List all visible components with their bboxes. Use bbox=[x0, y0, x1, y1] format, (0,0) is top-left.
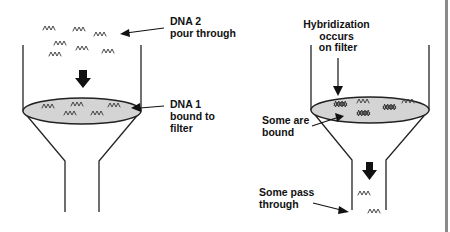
some-pass-pointer-arrow-icon bbox=[313, 203, 349, 214]
left-filter-disc bbox=[23, 98, 141, 124]
left-funnel-cone-right bbox=[99, 111, 141, 212]
pour-down-arrow-icon bbox=[75, 70, 91, 88]
dna2-pointer-arrow-icon bbox=[120, 28, 164, 37]
page-edge-bar bbox=[445, 0, 448, 232]
dna-hybridization-diagram: DNA 2 pour through DNA 1 bound to filter… bbox=[0, 0, 450, 232]
hybridization-pointer-arrow-icon bbox=[333, 58, 343, 96]
right-funnel bbox=[311, 45, 429, 210]
hybridization-label: Hybridization occurs on filter bbox=[303, 18, 372, 53]
some-bound-label: Some are bound bbox=[262, 114, 312, 138]
right-funnel-cone-right bbox=[386, 110, 429, 210]
dna1-label: DNA 1 bound to filter bbox=[170, 98, 218, 134]
passed-strands-icon bbox=[358, 191, 380, 213]
left-funnel-cone-left bbox=[23, 111, 65, 212]
dna2-strands-icon bbox=[43, 26, 114, 56]
dna2-label: DNA 2 pour through bbox=[170, 15, 236, 39]
some-pass-label: Some pass through bbox=[259, 186, 317, 210]
flow-down-arrow-icon bbox=[362, 162, 377, 180]
